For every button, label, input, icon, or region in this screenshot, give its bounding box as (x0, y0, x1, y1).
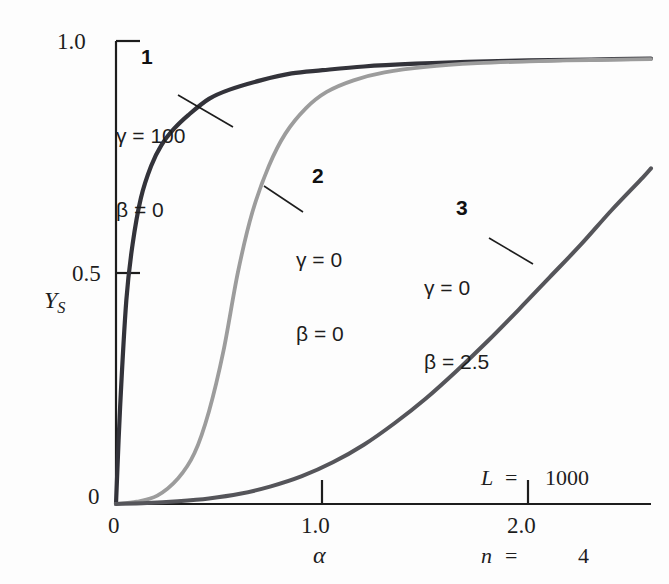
condition-row-L: L = 1000 (481, 465, 589, 491)
x-axis-label: α (313, 541, 326, 569)
y-tick-label-0.5: 0.5 (72, 260, 101, 287)
curve-1-gamma: γ = 100 (116, 124, 185, 149)
figure-container: 1.0 0.5 0 YS 0 1.0 2.0 α 1 γ = 100 β = 0… (0, 0, 669, 584)
leader-line-3 (489, 238, 533, 264)
x-tick-label-0: 0 (108, 512, 120, 539)
condition-n-symbol: n (481, 543, 505, 569)
conditions-block: L = 1000 n = 4 (481, 413, 589, 584)
curve-2-beta: β = 0 (296, 322, 344, 347)
y-axis-label-sub: S (57, 298, 65, 317)
curve-label-2-params: γ = 0 β = 0 (296, 198, 344, 396)
y-axis-label: YS (20, 258, 66, 345)
curve-2-gamma: γ = 0 (296, 248, 344, 273)
curve-label-3-params: γ = 0 β = 2.5 (424, 226, 489, 424)
curve-3-beta: β = 2.5 (424, 350, 489, 375)
condition-L-equals: = (505, 465, 527, 491)
condition-n-equals: = (505, 543, 527, 569)
condition-L-value: 1000 (527, 465, 589, 491)
curve-1-beta: β = 0 (116, 198, 185, 223)
condition-row-n: n = 4 (481, 543, 589, 569)
y-tick-label-1.0: 1.0 (57, 28, 86, 55)
curve-label-3-number: 3 (456, 196, 468, 221)
y-tick-label-0: 0 (88, 483, 100, 510)
curve-3-gamma: γ = 0 (424, 276, 489, 301)
curve-label-1-number: 1 (141, 45, 153, 70)
curve-label-2-number: 2 (312, 164, 324, 189)
y-axis-label-main: Y (44, 287, 57, 313)
curve-label-1-params: γ = 100 β = 0 (116, 74, 185, 272)
condition-n-value: 4 (527, 543, 589, 569)
x-tick-label-1.0: 1.0 (301, 512, 330, 539)
condition-L-symbol: L (481, 465, 505, 491)
